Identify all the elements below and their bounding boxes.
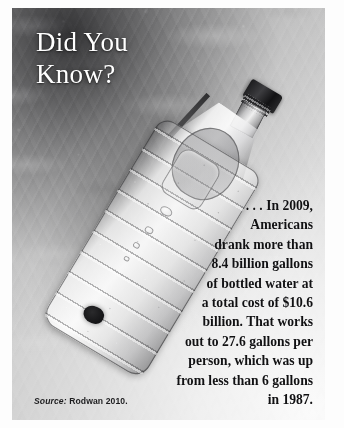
source-label: Source: [34,396,67,406]
page-background: Did You Know? . . . In 2009, Americans d… [0,0,344,428]
source-citation: Source: Rodwan 2010. [34,396,128,406]
source-value: Rodwan 2010. [69,396,128,406]
did-you-know-panel: Did You Know? . . . In 2009, Americans d… [12,8,325,420]
page-title: Did You Know? [36,26,196,90]
fact-body-text: . . . In 2009, Americans drank more than… [127,196,313,409]
